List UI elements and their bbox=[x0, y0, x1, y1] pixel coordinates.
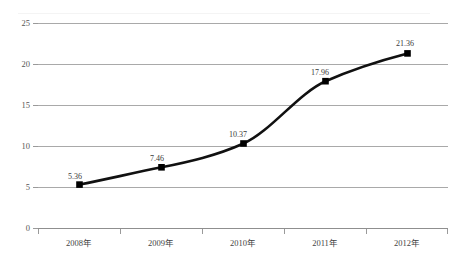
data-label-2011: 17.96 bbox=[300, 68, 340, 77]
y-tick-label-10: 10 bbox=[8, 142, 30, 151]
y-tick-label-0: 0 bbox=[8, 224, 30, 233]
data-label-2010: 10.37 bbox=[218, 130, 258, 139]
x-tick-label-2008: 2008年 bbox=[38, 239, 120, 248]
x-tick-label-2010: 2010年 bbox=[202, 239, 284, 248]
y-axis-ticks bbox=[33, 24, 38, 229]
data-point-2011 bbox=[322, 78, 329, 85]
data-label-2009: 7.46 bbox=[137, 154, 177, 163]
data-label-2008: 5.36 bbox=[55, 172, 95, 181]
data-series-line bbox=[80, 53, 408, 184]
x-tick-label-2011: 2011年 bbox=[284, 239, 366, 248]
y-tick-label-20: 20 bbox=[8, 60, 30, 69]
y-tick-label-5: 5 bbox=[8, 183, 30, 192]
x-axis-ticks bbox=[39, 229, 448, 234]
data-point-markers bbox=[76, 50, 411, 188]
data-label-2012: 21.36 bbox=[385, 39, 425, 48]
data-point-2008 bbox=[76, 181, 83, 188]
y-tick-label-25: 25 bbox=[8, 19, 30, 28]
data-point-2012 bbox=[404, 50, 411, 57]
gridlines bbox=[38, 24, 448, 188]
y-tick-label-15: 15 bbox=[8, 101, 30, 110]
x-tick-label-2012: 2012年 bbox=[366, 239, 448, 248]
data-point-2010 bbox=[240, 140, 247, 147]
data-point-2009 bbox=[158, 164, 165, 171]
x-tick-label-2009: 2009年 bbox=[120, 239, 202, 248]
line-chart: · ·· ·· ··· ·· ··· ·· ···· bbox=[0, 0, 461, 258]
